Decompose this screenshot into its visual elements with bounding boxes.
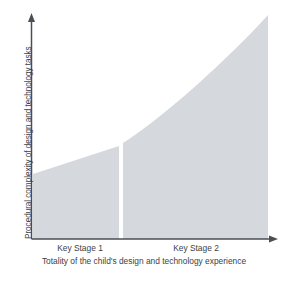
- x-axis-caption: Totality of the child's design and techn…: [14, 256, 274, 267]
- x-tick-label-key-stage-2: Key Stage 2: [148, 243, 244, 254]
- y-axis-label: Procedural complexity of design and tech…: [24, 9, 34, 239]
- key-stage-complexity-chart: [0, 0, 287, 284]
- x-tick-label-key-stage-1: Key Stage 1: [36, 243, 124, 254]
